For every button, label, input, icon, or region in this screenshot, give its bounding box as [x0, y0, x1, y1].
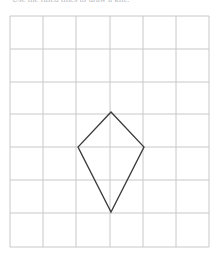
- grid-vertical-lines: [10, 16, 209, 247]
- grid-and-shape-canvas: [0, 0, 217, 259]
- kite-shape: [78, 112, 144, 212]
- kite-worksheet: Use the ruled lines to draw a kite.: [0, 0, 217, 259]
